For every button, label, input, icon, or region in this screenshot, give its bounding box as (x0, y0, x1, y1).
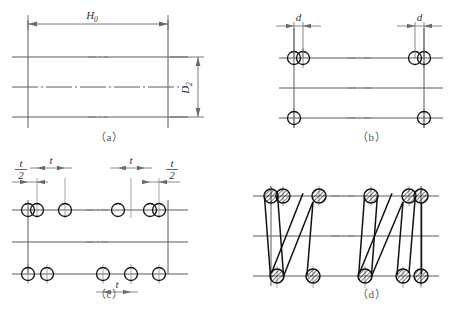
b-d-right-arrow-in-b (424, 24, 432, 28)
c-half-left-den: 2 (18, 169, 24, 181)
d-coil-lines (265, 193, 422, 277)
d-hatched-circle-top-6 (414, 189, 428, 203)
c-t-left-label: t (49, 156, 53, 166)
d-hatched-circle-top-4 (364, 189, 378, 203)
b-d-left-label: d (296, 11, 302, 23)
c-half-right-den: 2 (169, 169, 175, 181)
d-hatched-circle-bottom-3 (358, 269, 372, 283)
d2-arrow-bottom (196, 108, 201, 117)
panel-d-finished-spring (231, 156, 463, 314)
caption-a: （a） (95, 128, 123, 144)
b-d-left-arrow-in-a (286, 24, 294, 28)
spring-construction-figure: H0 D2 （a） (0, 0, 463, 314)
d-hatched-circle-top-2 (276, 189, 290, 203)
b-d-right-label: d (417, 11, 423, 23)
c-t-right-label: t (129, 156, 133, 166)
c-half-right-num: t (170, 157, 174, 169)
panel-b-wire-circles: d d (231, 0, 463, 157)
b-d-right-arrow-in-a (407, 24, 415, 28)
caption-c: （c） (95, 285, 123, 301)
d2-label: D2 (179, 82, 194, 95)
d2-arrow-top (196, 57, 201, 66)
d-hatched-circle-bottom-1 (270, 269, 284, 283)
d-hatched-circle-top-3 (312, 189, 326, 203)
h0-label: H0 (85, 9, 98, 24)
d-hatched-circle-bottom-2 (306, 269, 320, 283)
caption-d: （d） (357, 285, 386, 301)
h0-arrow-right (159, 22, 168, 27)
d-hatched-circle-bottom-5 (414, 269, 428, 283)
h0-arrow-left (28, 22, 37, 27)
caption-b: （b） (357, 128, 386, 144)
b-d-left-arrow-in-b (303, 24, 311, 28)
c-half-left-num: t (19, 157, 23, 169)
d-hatched-circle-bottom-4 (396, 269, 410, 283)
